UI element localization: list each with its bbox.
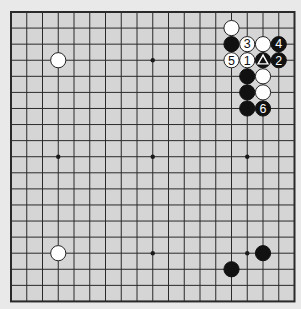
star-point: [151, 155, 155, 159]
black-stone[interactable]: [240, 85, 255, 100]
star-point: [245, 155, 249, 159]
white-stone[interactable]: [255, 69, 270, 84]
move-number-label: 5: [228, 54, 235, 68]
star-point: [56, 155, 60, 159]
white-stone[interactable]: 1: [240, 53, 255, 68]
white-stone[interactable]: [51, 53, 66, 68]
star-point: [151, 251, 155, 255]
black-stone[interactable]: 4: [271, 37, 286, 52]
black-stone[interactable]: 2: [271, 53, 286, 68]
black-stone[interactable]: 6: [255, 101, 270, 116]
move-number-label: 2: [275, 54, 282, 68]
move-number-label: 1: [244, 54, 251, 68]
black-stone[interactable]: [240, 101, 255, 116]
white-stone[interactable]: 5: [224, 53, 239, 68]
star-point: [245, 251, 249, 255]
black-stone[interactable]: [240, 69, 255, 84]
go-board[interactable]: 345126: [0, 0, 301, 309]
move-number-label: 4: [275, 37, 282, 51]
black-stone[interactable]: [255, 246, 270, 261]
move-number-label: 6: [260, 102, 267, 116]
go-board-canvas[interactable]: 345126: [0, 0, 301, 309]
move-number-label: 3: [244, 37, 251, 51]
black-stone[interactable]: [224, 262, 239, 277]
white-stone[interactable]: [255, 85, 270, 100]
black-stone[interactable]: [224, 37, 239, 52]
white-stone[interactable]: 3: [240, 37, 255, 52]
white-stone[interactable]: [255, 37, 270, 52]
black-stone[interactable]: [255, 53, 270, 68]
white-stone[interactable]: [51, 246, 66, 261]
white-stone[interactable]: [224, 20, 239, 35]
star-point: [151, 58, 155, 62]
